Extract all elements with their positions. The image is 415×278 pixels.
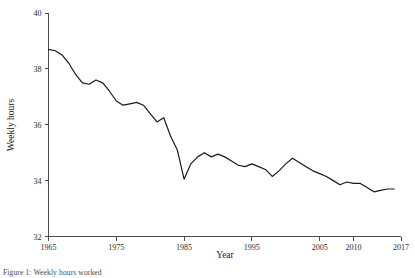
x-tick-label: 1965: [41, 243, 57, 252]
x-axis-title: Year: [216, 250, 234, 260]
figure-caption: Figure 1: Weekly hours worked: [3, 268, 102, 277]
y-tick-label: 40: [34, 9, 42, 18]
x-tick-label: 2005: [312, 243, 328, 252]
chart-figure: Weekly hours 3234363840 1965197519851995…: [0, 0, 415, 278]
x-tick-label: 2010: [346, 243, 362, 252]
y-axis-title: Weekly hours: [6, 99, 16, 152]
chart-svg: Weekly hours 3234363840 1965197519851995…: [0, 0, 415, 278]
y-tick-label: 38: [34, 65, 42, 74]
x-tick-label: 2017: [393, 243, 409, 252]
x-tick-label: 1995: [244, 243, 260, 252]
x-tick-label: 1985: [176, 243, 192, 252]
y-tick-label: 36: [34, 121, 42, 130]
y-tick-group: 3234363840: [34, 9, 49, 242]
y-tick-label: 32: [34, 233, 42, 242]
x-tick-label: 1975: [108, 243, 124, 252]
y-tick-label: 34: [34, 177, 42, 186]
data-series-line: [49, 49, 395, 191]
